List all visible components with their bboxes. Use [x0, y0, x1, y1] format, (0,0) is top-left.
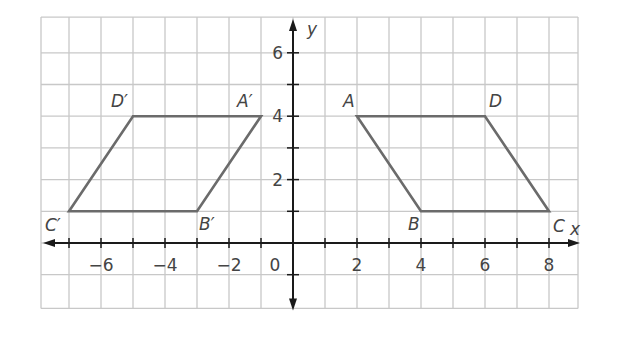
x-tick-label: −6: [88, 255, 113, 275]
x-tick-label: 8: [544, 255, 555, 275]
vertex-label-c-prime: C′: [45, 215, 61, 235]
x-tick-label: −2: [216, 255, 241, 275]
x-axis-label: x: [569, 219, 581, 239]
axes: [43, 19, 580, 310]
coordinate-plane: −6−4−224682460xyABCDA′B′C′D′: [0, 0, 617, 338]
y-arrow-up-icon: [289, 19, 297, 31]
x-tick-label: 4: [416, 255, 427, 275]
x-tick-label: −4: [152, 255, 177, 275]
x-arrow-left-icon: [43, 239, 55, 247]
x-tick-label: 2: [352, 255, 363, 275]
vertex-label-d-prime: D′: [111, 91, 128, 111]
vertex-label-b-prime: B′: [199, 214, 215, 234]
shapes: [69, 116, 549, 211]
y-axis-label: y: [306, 19, 318, 39]
y-tick-label: 4: [272, 106, 283, 126]
vertex-label-d: D: [489, 91, 502, 111]
x-tick-label: 6: [480, 255, 491, 275]
vertex-label-a: A: [342, 91, 355, 111]
vertex-label-a-prime: A′: [236, 91, 253, 111]
grid: [41, 17, 578, 308]
labels: −6−4−224682460xyABCDA′B′C′D′: [45, 19, 581, 275]
y-tick-label: 2: [272, 170, 283, 190]
vertex-label-c: C: [553, 216, 565, 236]
y-tick-label: 6: [272, 43, 283, 63]
vertex-label-b: B: [408, 214, 420, 234]
origin-label: 0: [270, 255, 281, 275]
